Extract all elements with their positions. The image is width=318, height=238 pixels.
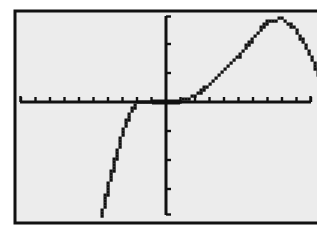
curve-pixel	[245, 47, 248, 50]
curve-pixel	[266, 23, 269, 26]
curve-pixel	[314, 62, 317, 65]
curve-pixel	[209, 83, 212, 86]
curve-pixel	[311, 59, 314, 62]
curve-pixel	[137, 101, 140, 104]
curve-pixel	[314, 68, 317, 71]
curve-pixel	[104, 203, 107, 206]
curve-pixel	[113, 158, 116, 161]
curve-pixel	[131, 107, 134, 110]
curve-pixel	[236, 56, 239, 59]
curve-pixel	[122, 131, 125, 134]
curve-pixel	[146, 101, 149, 104]
curve-pixel	[188, 98, 191, 101]
curve-pixel	[284, 20, 287, 23]
curve-pixel	[299, 38, 302, 41]
curve-pixel	[302, 38, 305, 41]
curve-pixel	[200, 89, 203, 92]
curve-pixel	[290, 26, 293, 29]
graph-plot	[0, 0, 317, 238]
curve-pixel	[317, 71, 318, 74]
curve-pixel	[281, 17, 284, 20]
curve-pixel	[299, 35, 302, 38]
curve-pixel	[206, 86, 209, 89]
curve-pixel	[116, 149, 119, 152]
curve-pixel	[302, 41, 305, 44]
curve-pixel	[185, 98, 188, 101]
curve-pixel	[197, 92, 200, 95]
curve-pixel	[287, 23, 290, 26]
curve-pixel	[251, 38, 254, 41]
curve-pixel	[101, 212, 104, 215]
curve-pixel	[296, 29, 299, 32]
curve-pixel	[305, 47, 308, 50]
curve-pixel	[110, 179, 113, 182]
curve-pixel	[317, 74, 318, 77]
curve-pixel	[227, 65, 230, 68]
curve-pixel	[143, 101, 146, 104]
curve-pixel	[125, 119, 128, 122]
curve-pixel	[275, 20, 278, 23]
curve-pixel	[293, 26, 296, 29]
curve-pixel	[314, 65, 317, 68]
curve-pixel	[266, 20, 269, 23]
curve-pixel	[221, 71, 224, 74]
curve-pixel	[248, 44, 251, 47]
curve-pixel	[104, 194, 107, 197]
curve-pixel	[110, 170, 113, 173]
curve-pixel	[116, 155, 119, 158]
curve-pixel	[278, 17, 281, 20]
curve-pixel	[215, 77, 218, 80]
curve-pixel	[233, 59, 236, 62]
curve-pixel	[110, 173, 113, 176]
curve-pixel	[101, 215, 104, 218]
curve-pixel	[134, 104, 137, 107]
curve-pixel	[239, 53, 242, 56]
curve-pixel	[104, 200, 107, 203]
curve-pixel	[290, 23, 293, 26]
curve-pixel	[257, 32, 260, 35]
curve-axis-overlap	[152, 100, 180, 105]
curve-pixel	[101, 209, 104, 212]
curve-pixel	[272, 20, 275, 23]
curve-pixel	[203, 86, 206, 89]
curve-pixel	[113, 170, 116, 173]
curve-pixel	[122, 128, 125, 131]
curve-pixel	[119, 146, 122, 149]
curve-pixel	[116, 158, 119, 161]
curve-pixel	[107, 188, 110, 191]
curve-pixel	[308, 50, 311, 53]
curve-pixel	[113, 161, 116, 164]
curve-pixel	[251, 41, 254, 44]
curve-pixel	[107, 194, 110, 197]
curve-pixel	[119, 140, 122, 143]
curve-pixel	[191, 95, 194, 98]
curve-pixel	[122, 134, 125, 137]
curve-pixel	[305, 44, 308, 47]
calculator-graph-screen	[0, 0, 317, 238]
curve-pixel	[245, 44, 248, 47]
curve-pixel	[296, 32, 299, 35]
curve-pixel	[128, 116, 131, 119]
curve-pixel	[107, 185, 110, 188]
curve-pixel	[107, 191, 110, 194]
curve-pixel	[230, 62, 233, 65]
curve-pixel	[128, 113, 131, 116]
curve-pixel	[308, 53, 311, 56]
curve-pixel	[200, 92, 203, 95]
curve-pixel	[254, 35, 257, 38]
curve-pixel	[182, 98, 185, 101]
curve-pixel	[212, 80, 215, 83]
curve-pixel	[203, 89, 206, 92]
curve-pixel	[113, 164, 116, 167]
curve-pixel	[263, 26, 266, 29]
curve-pixel	[104, 206, 107, 209]
curve-pixel	[128, 119, 131, 122]
curve-pixel	[194, 95, 197, 98]
curve-pixel	[119, 143, 122, 146]
curve-pixel	[125, 122, 128, 125]
curve-pixel	[224, 68, 227, 71]
curve-pixel	[260, 29, 263, 32]
curve-pixel	[311, 56, 314, 59]
curve-pixel	[239, 56, 242, 59]
curve-pixel	[113, 167, 116, 170]
